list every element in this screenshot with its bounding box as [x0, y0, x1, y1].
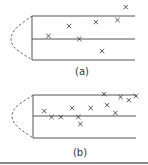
panel-a-data-point [67, 24, 71, 28]
panel-a-data-point [124, 5, 128, 9]
panel-b-data-point [134, 94, 138, 98]
panel-b-data-point [78, 122, 82, 126]
panel-b-data-point [127, 98, 131, 102]
panel-b-data-point [102, 92, 106, 96]
panel-a-data-point [46, 34, 50, 38]
panel-a-data-point [94, 20, 98, 24]
panel-b-distribution-curve [12, 95, 33, 138]
panel-b-data-point [42, 109, 46, 113]
panel-a [11, 5, 135, 60]
panel-b-data-point [88, 106, 92, 110]
panel-a-data-point [100, 49, 104, 53]
figure-canvas: (a) (b) [0, 0, 148, 165]
panel-a-data-point [115, 18, 119, 22]
panel-b-label: (b) [73, 147, 87, 158]
panel-b-data-point [70, 106, 74, 110]
panel-a-label: (a) [75, 66, 89, 77]
panel-b-data-point [105, 103, 109, 107]
panel-b-data-point [113, 111, 117, 115]
panel-a-distribution-curve [11, 16, 32, 60]
panel-b [12, 92, 138, 138]
panel-b-data-point [118, 95, 122, 99]
